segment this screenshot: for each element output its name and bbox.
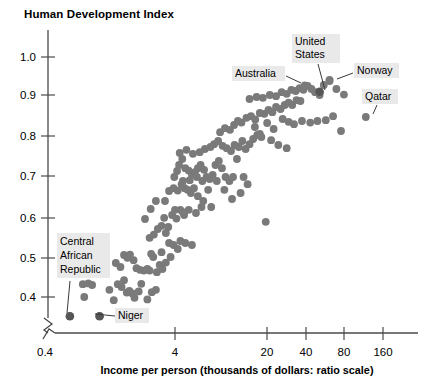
scatter-point — [263, 119, 271, 127]
scatter-point — [298, 117, 306, 125]
leader-line-qatar — [373, 105, 377, 114]
scatter-point — [259, 94, 267, 102]
scatter-point — [176, 149, 184, 157]
callout-label-australia: Australia — [235, 67, 276, 79]
scatter-point — [164, 223, 172, 231]
scatter-point — [240, 173, 248, 181]
scatter-point — [322, 116, 330, 124]
scatter-point — [200, 166, 208, 174]
scatter-point — [181, 239, 189, 247]
scatter-point — [179, 208, 187, 216]
scatter-point — [147, 205, 155, 213]
callout-label-norway: Norway — [357, 64, 393, 76]
y-tick-label-0.8: 0.8 — [20, 130, 36, 142]
annotation-central-african-republic: Central African Republic — [57, 233, 110, 313]
scatter-point — [161, 197, 169, 205]
y-tick-label-0.4: 0.4 — [20, 291, 37, 303]
scatter-point — [117, 263, 125, 271]
scatter-point — [160, 214, 168, 222]
scatter-point — [137, 280, 145, 288]
callout-label-car-line2: African — [60, 249, 93, 261]
scatter-point-annotated — [301, 82, 309, 90]
x-tick-label-40: 40 — [300, 346, 313, 358]
scatter-point — [262, 218, 270, 226]
scatter-point — [172, 215, 180, 223]
scatter-point — [149, 253, 157, 261]
scatter-point — [233, 155, 241, 163]
scatter-point-highlighted — [315, 88, 324, 97]
scatter-point — [135, 288, 143, 296]
callout-label-qatar: Qatar — [365, 90, 392, 102]
scatter-point — [270, 125, 278, 133]
scatter-point — [192, 209, 200, 217]
y-axis: 1.0 0.9 0.8 0.7 0.6 0.5 0.4 — [20, 30, 55, 333]
scatter-point — [193, 173, 201, 181]
chart-svg: Human Development Index 1.0 0.9 0.8 0.7 … — [0, 0, 426, 380]
scatter-point — [237, 189, 245, 197]
y-tick-label-1.0: 1.0 — [20, 51, 36, 63]
scatter-point — [229, 173, 237, 181]
scatter-point-annotated — [362, 113, 370, 121]
scatter-point — [337, 127, 345, 135]
scatter-point — [162, 259, 170, 267]
scatter-point — [283, 144, 291, 152]
scatter-point — [152, 286, 160, 294]
scatter-point — [143, 296, 151, 304]
callout-label-united-states-line2: States — [295, 48, 325, 60]
hdi-income-scatter-chart: Human Development Index 1.0 0.9 0.8 0.7 … — [0, 0, 426, 380]
scatter-point — [88, 281, 96, 289]
y-tick-label-0.9: 0.9 — [20, 89, 36, 101]
scatter-point — [171, 206, 179, 214]
leader-line-norway — [337, 73, 353, 79]
scatter-point — [213, 177, 221, 185]
scatter-point — [228, 195, 236, 203]
scatter-point — [174, 245, 182, 253]
callout-label-car-line1: Central — [60, 235, 94, 247]
scatter-point — [207, 203, 215, 211]
annotation-qatar: Qatar — [362, 89, 398, 114]
scatter-point — [267, 136, 275, 144]
scatter-point — [188, 241, 196, 249]
x-axis-title: Income per person (thousands of dollars:… — [101, 364, 374, 376]
scatter-point — [297, 97, 305, 105]
callout-label-car-line3: Republic — [60, 263, 101, 275]
scatter-point — [158, 248, 166, 256]
scatter-point — [246, 95, 254, 103]
scatter-point — [130, 256, 138, 264]
scatter-point — [215, 157, 223, 165]
annotation-australia: Australia — [232, 66, 301, 83]
scatter-point — [131, 294, 139, 302]
scatter-point — [80, 293, 88, 301]
annotation-norway: Norway — [337, 63, 399, 79]
scatter-point — [114, 280, 122, 288]
scatter-point — [251, 116, 259, 124]
scatter-point-highlighted — [95, 312, 104, 321]
scatter-point-annotated — [326, 76, 334, 84]
scatter-point — [329, 112, 337, 120]
scatter-points-layer — [66, 76, 370, 321]
scatter-point — [199, 197, 207, 205]
x-tick-label-160: 160 — [373, 346, 392, 358]
scatter-point — [110, 296, 118, 304]
scatter-point — [290, 120, 298, 128]
scatter-point — [274, 141, 282, 149]
y-tick-label-0.5: 0.5 — [20, 252, 36, 264]
scatter-point — [340, 91, 348, 99]
scatter-point — [186, 176, 194, 184]
scatter-point-highlighted — [66, 312, 75, 321]
scatter-point — [314, 117, 322, 125]
scatter-point — [179, 177, 187, 185]
scatter-point — [106, 286, 114, 294]
scatter-point — [256, 130, 264, 138]
scatter-point — [238, 137, 246, 145]
chart-title: Human Development Index — [24, 8, 174, 20]
scatter-point — [306, 119, 314, 127]
scatter-point — [152, 197, 160, 205]
scatter-point — [141, 215, 149, 223]
y-tick-label-0.7: 0.7 — [20, 170, 36, 182]
scatter-point — [146, 267, 154, 275]
x-tick-label-20: 20 — [261, 346, 274, 358]
x-tick-label-4: 4 — [172, 346, 179, 358]
scatter-point — [218, 164, 226, 172]
callout-label-united-states-line1: United — [295, 35, 326, 47]
